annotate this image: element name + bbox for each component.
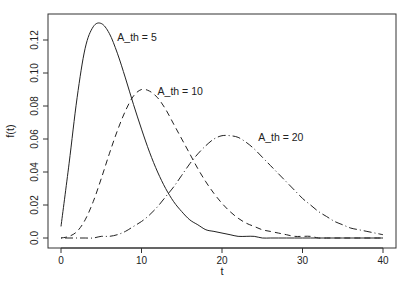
series-line-2 xyxy=(61,89,383,238)
y-axis-title: f(t) xyxy=(4,124,16,137)
series-annotation: A_th = 5 xyxy=(117,31,157,43)
plot-frame xyxy=(48,14,396,248)
density-chart: 010203040 0.00.020.040.060.080.100.12 A_… xyxy=(0,0,419,291)
series-annotation: A_th = 20 xyxy=(258,131,303,143)
x-tick-label: 10 xyxy=(136,255,148,266)
x-axis-title: t xyxy=(220,265,223,277)
curves xyxy=(61,23,383,238)
y-tick-label: 0.12 xyxy=(29,30,40,50)
x-tick-label: 40 xyxy=(377,255,389,266)
x-tick-label: 30 xyxy=(297,255,309,266)
series-annotation: A_th = 10 xyxy=(158,85,203,97)
x-axis: 010203040 xyxy=(58,248,389,266)
series-line-3 xyxy=(61,135,383,238)
y-tick-label: 0.0 xyxy=(29,231,40,245)
annotations: A_th = 5A_th = 10A_th = 20 xyxy=(117,31,303,144)
y-tick-label: 0.10 xyxy=(29,63,40,83)
y-tick-label: 0.08 xyxy=(29,96,40,116)
y-tick-label: 0.06 xyxy=(29,129,40,149)
x-tick-label: 0 xyxy=(58,255,64,266)
y-tick-label: 0.04 xyxy=(29,162,40,182)
series-line-1 xyxy=(61,23,383,238)
y-axis: 0.00.020.040.060.080.100.12 xyxy=(29,30,48,245)
y-tick-label: 0.02 xyxy=(29,195,40,215)
